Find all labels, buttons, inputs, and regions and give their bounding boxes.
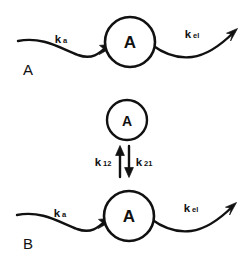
- panel-a-letter: A: [23, 61, 33, 78]
- panel-a-kel-label: k el: [185, 28, 199, 40]
- panel-b-central-compartment-label: A: [123, 207, 135, 226]
- panel-b-k12-subscript: 12: [103, 159, 111, 168]
- panel-b-k21-base: k: [136, 156, 143, 168]
- panel-b-peripheral-compartment-label: A: [122, 113, 132, 129]
- k12-arrowhead: [116, 146, 125, 156]
- panel-a-ka-label: k a: [55, 33, 68, 45]
- panel-a-ka-base: k: [55, 33, 62, 45]
- panel-a-kel-base: k: [185, 28, 192, 40]
- pharmacokinetic-model-diagram: A k a k el A A: [0, 0, 248, 264]
- k21-arrowhead: [125, 168, 134, 178]
- panel-b-kel-label: k el: [184, 202, 198, 214]
- panel-b-k21-arrow: [125, 146, 134, 178]
- panel-b-k21-label: k 21: [136, 156, 153, 168]
- panel-b-group: A k 12 k 21: [17, 100, 237, 252]
- panel-a-compartment-label: A: [124, 33, 136, 52]
- panel-b-ka-label: k a: [54, 207, 67, 219]
- panel-b-kel-subscript: el: [192, 205, 198, 214]
- panel-b-k12-label: k 12: [95, 156, 112, 168]
- panel-b-kel-base: k: [184, 202, 191, 214]
- diagram-canvas: A k a k el A A: [0, 0, 248, 264]
- panel-b-letter: B: [23, 235, 33, 252]
- panel-a-group: A k a k el A: [18, 17, 238, 78]
- panel-b-k12-arrow: [116, 146, 125, 178]
- panel-b-ka-subscript: a: [62, 210, 67, 219]
- panel-b-ka-base: k: [54, 207, 61, 219]
- panel-a-kel-subscript: el: [193, 31, 199, 40]
- panel-b-k21-subscript: 21: [144, 159, 152, 168]
- panel-b-k12-base: k: [95, 156, 102, 168]
- panel-a-ka-subscript: a: [63, 36, 68, 45]
